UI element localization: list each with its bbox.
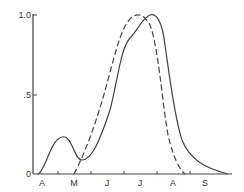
y-tick-label: 0: [26, 169, 31, 179]
line-chart: 1.0 .5 0 A M J J A S: [0, 0, 244, 192]
x-tick-label: S: [202, 178, 208, 188]
y-tick-label: 1.0: [18, 10, 31, 20]
x-tick-label: A: [39, 178, 45, 188]
y-tick-label: .5: [23, 90, 31, 100]
x-tick-label: M: [70, 178, 78, 188]
x-tick-label: A: [170, 178, 176, 188]
x-tick-label: J: [105, 178, 110, 188]
solid-series-line: [38, 15, 228, 174]
x-tick-label: J: [138, 178, 143, 188]
